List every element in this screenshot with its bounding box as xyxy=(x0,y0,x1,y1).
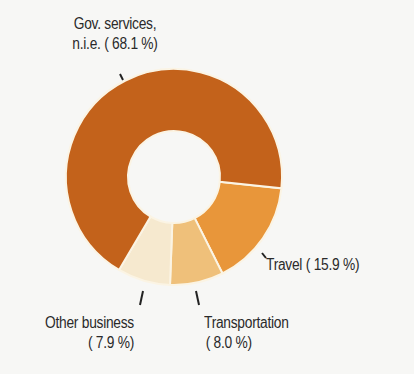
label-gov-services-line1: Gov. services, xyxy=(51,14,180,34)
label-other-business-line2: ( 7.9 %) xyxy=(31,333,134,353)
label-travel-text: Travel ( 15.9 %) xyxy=(266,255,359,275)
leader-transportation xyxy=(196,291,199,305)
label-other-business: Other business ( 7.9 %) xyxy=(31,313,134,353)
label-travel: Travel ( 15.9 %) xyxy=(266,255,359,275)
label-transportation-line1: Transportation xyxy=(204,313,289,333)
label-other-business-line1: Other business xyxy=(31,313,134,333)
label-gov-services-line2: n.i.e. ( 68.1 %) xyxy=(51,34,180,54)
label-transportation: Transportation ( 8.0 %) xyxy=(204,313,289,353)
leader-gov-services xyxy=(120,74,123,80)
slices xyxy=(66,69,282,285)
label-transportation-line2: ( 8.0 %) xyxy=(204,333,289,353)
label-gov-services: Gov. services, n.i.e. ( 68.1 %) xyxy=(51,14,180,54)
leader-other-business xyxy=(140,291,143,305)
